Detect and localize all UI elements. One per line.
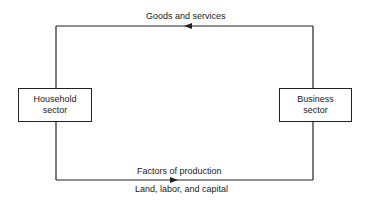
arrow-right-icon bbox=[170, 177, 178, 183]
factors-of-production-label: Factors of production bbox=[137, 166, 222, 176]
household-line2: sector bbox=[19, 105, 91, 116]
business-sector-box: Business sector bbox=[279, 88, 352, 122]
household-line1: Household bbox=[19, 94, 91, 105]
business-line1: Business bbox=[280, 94, 351, 105]
goods-and-services-label: Goods and services bbox=[146, 11, 226, 21]
household-sector-box: Household sector bbox=[18, 88, 92, 122]
business-line2: sector bbox=[280, 105, 351, 116]
arrow-left-icon bbox=[184, 23, 192, 29]
land-labor-capital-label: Land, labor, and capital bbox=[135, 184, 228, 194]
